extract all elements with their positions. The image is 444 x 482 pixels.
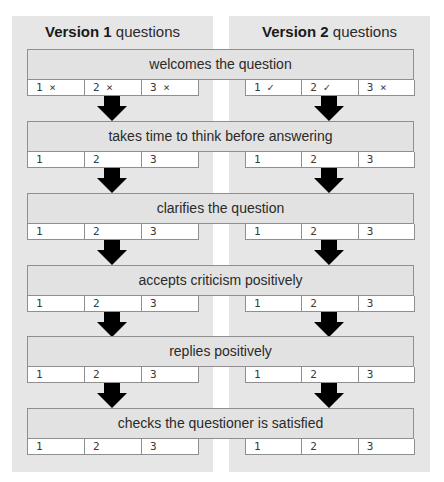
v2-scores-step-3: 1 2 3 — [245, 224, 415, 240]
v2-score-2: 2 — [301, 152, 357, 167]
down-arrow-icon — [314, 168, 344, 193]
down-arrow-icon — [314, 312, 344, 337]
v1-score-1: 1 × — [28, 80, 84, 95]
v2-score-3: 3 — [358, 296, 414, 311]
v2-score-1: 1 ✓ — [246, 80, 301, 95]
v1-score-2: 2 — [84, 367, 141, 382]
v2-score-3: 3 — [358, 439, 414, 454]
v2-score-2: 2 ✓ — [301, 80, 357, 95]
version-2-title-rest: questions — [329, 23, 397, 40]
v2-score-2: 2 — [301, 367, 357, 382]
v1-score-3: 3 — [141, 367, 198, 382]
v1-score-3: 3 × — [141, 80, 198, 95]
version-1-title-rest: questions — [112, 23, 180, 40]
v1-scores-step-3: 1 2 3 — [27, 224, 199, 240]
v1-score-3: 3 — [141, 439, 198, 454]
step-checks-questioner-satisfied: checks the questioner is satisfied — [27, 408, 414, 439]
down-arrow-icon — [97, 312, 127, 337]
v2-scores-step-4: 1 2 3 — [245, 296, 415, 312]
v1-scores-step-2: 1 2 3 — [27, 152, 199, 168]
v2-score-2: 2 — [301, 224, 357, 239]
v2-score-1: 1 — [246, 224, 301, 239]
version-1-title: Version 1 questions — [12, 23, 213, 40]
v1-score-3: 3 — [141, 152, 198, 167]
step-replies-positively: replies positively — [27, 336, 414, 367]
v1-score-2: 2 — [84, 439, 141, 454]
v1-scores-step-5: 1 2 3 — [27, 367, 199, 383]
v2-score-1: 1 — [246, 439, 301, 454]
down-arrow-icon — [97, 383, 127, 408]
down-arrow-icon — [97, 168, 127, 193]
v1-score-1: 1 — [28, 296, 84, 311]
v1-score-1: 1 — [28, 367, 84, 382]
down-arrow-icon — [97, 96, 127, 121]
step-clarifies-question: clarifies the question — [27, 193, 414, 224]
v1-score-1: 1 — [28, 439, 84, 454]
v1-score-1: 1 — [28, 224, 84, 239]
down-arrow-icon — [314, 383, 344, 408]
v1-score-2: 2 — [84, 224, 141, 239]
step-welcomes-question: welcomes the question — [27, 49, 414, 80]
v2-score-3: 3 — [358, 367, 414, 382]
v2-scores-step-6: 1 2 3 — [245, 439, 415, 455]
v2-score-3: 3 — [358, 224, 414, 239]
v2-score-1: 1 — [246, 296, 301, 311]
version-2-title-bold: Version 2 — [262, 23, 329, 40]
v2-scores-step-1: 1 ✓ 2 ✓ 3 × — [245, 80, 415, 96]
down-arrow-icon — [314, 240, 344, 265]
v1-score-3: 3 — [141, 296, 198, 311]
v1-score-1: 1 — [28, 152, 84, 167]
v1-score-2: 2 — [84, 296, 141, 311]
v1-scores-step-6: 1 2 3 — [27, 439, 199, 455]
v2-scores-step-5: 1 2 3 — [245, 367, 415, 383]
version-2-title: Version 2 questions — [229, 23, 430, 40]
step-accepts-criticism: accepts criticism positively — [27, 265, 414, 296]
v2-score-2: 2 — [301, 296, 357, 311]
down-arrow-icon — [97, 240, 127, 265]
v1-scores-step-1: 1 × 2 × 3 × — [27, 80, 199, 96]
v2-score-1: 1 — [246, 152, 301, 167]
v2-score-3: 3 — [358, 152, 414, 167]
down-arrow-icon — [314, 96, 344, 121]
step-takes-time-to-think: takes time to think before answering — [27, 121, 414, 152]
v2-scores-step-2: 1 2 3 — [245, 152, 415, 168]
v2-score-2: 2 — [301, 439, 357, 454]
v1-score-2: 2 × — [84, 80, 141, 95]
v1-score-2: 2 — [84, 152, 141, 167]
v2-score-1: 1 — [246, 367, 301, 382]
v1-scores-step-4: 1 2 3 — [27, 296, 199, 312]
version-1-title-bold: Version 1 — [45, 23, 112, 40]
v1-score-3: 3 — [141, 224, 198, 239]
v2-score-3: 3 × — [358, 80, 414, 95]
